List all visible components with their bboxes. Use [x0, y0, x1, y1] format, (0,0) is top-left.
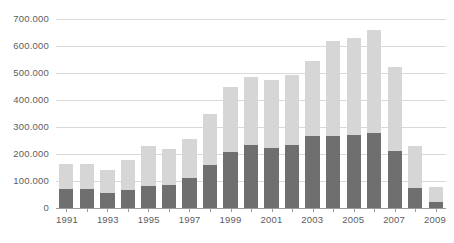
- tick-mark: [272, 208, 273, 212]
- bar-segment-upper-2004: [326, 41, 340, 136]
- bar-segment-upper-2007: [388, 67, 402, 151]
- bar-2008[interactable]: [408, 146, 422, 208]
- x-tick-1995: [138, 208, 159, 213]
- bar-1992[interactable]: [80, 164, 94, 208]
- x-tick-label-1991: 1991: [56, 214, 78, 225]
- x-tick-label-1996: [160, 214, 179, 225]
- bar-segment-lower-1994: [121, 190, 135, 208]
- tick-mark: [189, 208, 190, 212]
- bar-segment-lower-1997: [182, 178, 196, 208]
- bar-slot-2008: [405, 19, 426, 208]
- bar-2002[interactable]: [285, 75, 299, 208]
- bar-1996[interactable]: [162, 149, 176, 208]
- bar-segment-upper-1999: [223, 87, 237, 152]
- bar-segment-lower-2005: [347, 135, 361, 208]
- bar-segment-lower-1993: [100, 193, 114, 208]
- x-tick-1998: [200, 208, 221, 213]
- bar-2006[interactable]: [367, 30, 381, 208]
- bar-1995[interactable]: [141, 146, 155, 208]
- bar-slot-2009: [426, 19, 447, 208]
- x-tick-2003: [302, 208, 323, 213]
- x-tick-1992: [77, 208, 98, 213]
- x-tick-label-1995: 1995: [138, 214, 160, 225]
- tick-mark: [354, 208, 355, 212]
- x-tick-label-1993: 1993: [97, 214, 119, 225]
- stacked-bar-chart: 0100.000200.000300.000400.000500.000600.…: [0, 0, 454, 243]
- x-tick-label-2002: [282, 214, 301, 225]
- bar-2009[interactable]: [429, 187, 443, 208]
- x-tick-2002: [282, 208, 303, 213]
- x-tick-label-2005: 2005: [342, 214, 364, 225]
- bar-2004[interactable]: [326, 41, 340, 208]
- tick-mark: [333, 208, 334, 212]
- bar-segment-upper-1996: [162, 149, 176, 185]
- bar-group: [56, 19, 446, 208]
- bar-segment-upper-1992: [80, 164, 94, 189]
- bar-1991[interactable]: [59, 164, 73, 208]
- bar-segment-upper-2002: [285, 75, 299, 145]
- bar-slot-2005: [343, 19, 364, 208]
- tick-mark: [128, 208, 129, 212]
- x-tick-1991: [56, 208, 77, 213]
- bar-segment-upper-1998: [203, 114, 217, 165]
- x-tick-label-2007: 2007: [383, 214, 405, 225]
- bar-segment-lower-1999: [223, 152, 237, 208]
- bar-2003[interactable]: [305, 61, 319, 208]
- x-tick-1996: [159, 208, 180, 213]
- x-tick-label-2000: [242, 214, 261, 225]
- tick-mark: [292, 208, 293, 212]
- x-tick-1999: [220, 208, 241, 213]
- bar-segment-lower-1996: [162, 185, 176, 208]
- bar-slot-1998: [200, 19, 221, 208]
- bar-segment-upper-2006: [367, 30, 381, 133]
- x-tick-2006: [364, 208, 385, 213]
- bar-segment-upper-2000: [244, 77, 258, 145]
- bar-2001[interactable]: [264, 80, 278, 208]
- x-axis: 1991199319951997199920012003200520072009: [56, 208, 446, 243]
- bar-1997[interactable]: [182, 139, 196, 208]
- bar-2007[interactable]: [388, 67, 402, 208]
- bar-slot-2001: [261, 19, 282, 208]
- bar-slot-2002: [282, 19, 303, 208]
- x-tick-marks: [56, 208, 446, 213]
- x-tick-1994: [118, 208, 139, 213]
- y-tick-label-600000: 600.000: [13, 41, 49, 51]
- tick-mark: [313, 208, 314, 212]
- x-tick-label-1999: 1999: [220, 214, 242, 225]
- tick-mark: [169, 208, 170, 212]
- bar-segment-lower-1991: [59, 189, 73, 208]
- bar-slot-1995: [138, 19, 159, 208]
- x-tick-1997: [179, 208, 200, 213]
- x-tick-label-2001: 2001: [260, 214, 282, 225]
- bar-segment-upper-2009: [429, 187, 443, 202]
- bar-slot-2004: [323, 19, 344, 208]
- bar-segment-lower-2002: [285, 145, 299, 208]
- bar-segment-upper-1993: [100, 170, 114, 193]
- bar-segment-upper-2005: [347, 38, 361, 135]
- bar-segment-lower-2001: [264, 148, 278, 208]
- x-tick-2008: [405, 208, 426, 213]
- bar-segment-upper-2008: [408, 146, 422, 188]
- bar-slot-1992: [77, 19, 98, 208]
- bar-1993[interactable]: [100, 170, 114, 208]
- bar-1998[interactable]: [203, 114, 217, 208]
- tick-mark: [148, 208, 149, 212]
- tick-mark: [107, 208, 108, 212]
- bar-2005[interactable]: [347, 38, 361, 208]
- bar-slot-1994: [118, 19, 139, 208]
- tick-mark: [251, 208, 252, 212]
- x-tick-2005: [343, 208, 364, 213]
- tick-mark: [374, 208, 375, 212]
- bar-1994[interactable]: [121, 160, 135, 208]
- tick-mark: [66, 208, 67, 212]
- x-tick-label-2008: [405, 214, 424, 225]
- bar-1999[interactable]: [223, 87, 237, 208]
- bar-slot-1991: [56, 19, 77, 208]
- bar-segment-lower-1998: [203, 165, 217, 208]
- y-tick-label-400000: 400.000: [13, 95, 49, 105]
- y-tick-label-100000: 100.000: [13, 176, 49, 186]
- y-tick-label-700000: 700.000: [13, 14, 49, 24]
- bar-2000[interactable]: [244, 77, 258, 208]
- bar-segment-upper-1995: [141, 146, 155, 186]
- bar-segment-lower-2003: [305, 136, 319, 208]
